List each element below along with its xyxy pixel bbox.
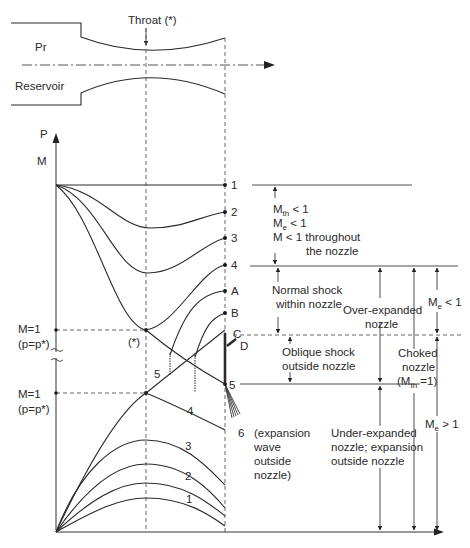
curve-2 [56,185,225,228]
expansion-wave-line2: wave [253,441,281,453]
y-label-p: P [40,128,48,140]
inlet-label: Pr [35,41,47,53]
choked-line1: Choked [398,347,438,359]
expansion-wave-line1: (expansion [254,427,310,439]
oblique-shock-line1: Oblique shock [282,346,355,358]
expansion-wave-line4: nozzle) [254,469,291,481]
expansion-label-6: 6 [238,427,244,439]
centerline-arrow-icon [264,61,275,69]
y-label-m: M [37,155,47,167]
nozzle-sketch: Throat (*) Pr Reservoir [11,14,275,105]
annotations: Mth < 1 Me < 1 M < 1 throughout the nozz… [233,185,462,530]
end-label-4: 4 [231,259,238,271]
nozzle-flow-diagram: Throat (*) Pr Reservoir P M M=1 (p=p*) M… [0,0,470,548]
normal-shock-line1: Normal shock [272,284,343,296]
subsonic-nozzle-text: the nozzle [306,245,358,257]
expansion-wave-line3: outside [254,455,291,467]
over-expanded-line2: nozzle [365,318,398,330]
subsonic-mth-text: Mth < 1 [273,203,309,218]
y-axis-arrow-icon [53,133,60,143]
mach-curves: 4 3 2 1 [56,393,225,532]
under-expanded-line2: nozzle; expansion [331,441,423,453]
normal-shock-line2: within nozzle [275,298,342,310]
end-label-2: 2 [231,206,237,218]
end-label-5: 5 [229,379,235,391]
oblique-shock-D [227,339,236,346]
end-label-C: C [233,328,241,340]
m1-upper-label: M=1 [18,323,41,335]
choked-line2: nozzle [402,361,435,373]
mach-label-4: 4 [187,405,194,417]
under-expanded-line1: Under-expanded [331,427,417,439]
pressure-curves: 1 2 3 4 A B C D 5 5 6 [56,179,248,439]
reservoir-label: Reservoir [15,80,64,92]
oblique-shock-line2: outside nozzle [282,360,356,372]
throat-label: Throat (*) [128,14,177,26]
axis-break-icon [51,349,63,352]
over-expanded-line1: Over-expanded [343,304,422,316]
throat-point-label: (*) [128,336,140,348]
mach-curve-1 [56,498,225,532]
curve-A [170,291,225,355]
end-label-1: 1 [231,179,237,191]
curve-3 [56,185,225,273]
end-label-A: A [231,285,239,297]
axis-break-icon [51,359,63,362]
me-gt-1-label: Me > 1 [425,418,459,433]
pstar-upper-label: (p=p*) [18,338,50,350]
choked-line3: (Mth =1) [397,375,437,390]
x-axis-arrow-icon [434,529,444,536]
subsonic-me-text: Me < 1 [273,217,307,232]
end-label-D: D [240,340,248,352]
mach-label-2: 2 [185,470,191,482]
m1-lower-label: M=1 [18,388,41,400]
mach-label-1: 1 [186,493,192,505]
mach-label-3: 3 [185,440,191,452]
subsonic-m-text: M < 1 throughout [273,231,361,243]
end-label-3: 3 [231,232,237,244]
mach-curve-5-subsonic [56,393,225,532]
pstar-lower-label: (p=p*) [18,403,50,415]
inline-label-5: 5 [154,368,160,380]
curve-4 [56,185,225,330]
mach-curve-2 [56,483,225,532]
me-lt-1-label: Me < 1 [428,296,462,311]
under-expanded-line3: outside nozzle [331,455,405,467]
end-label-B: B [231,307,239,319]
